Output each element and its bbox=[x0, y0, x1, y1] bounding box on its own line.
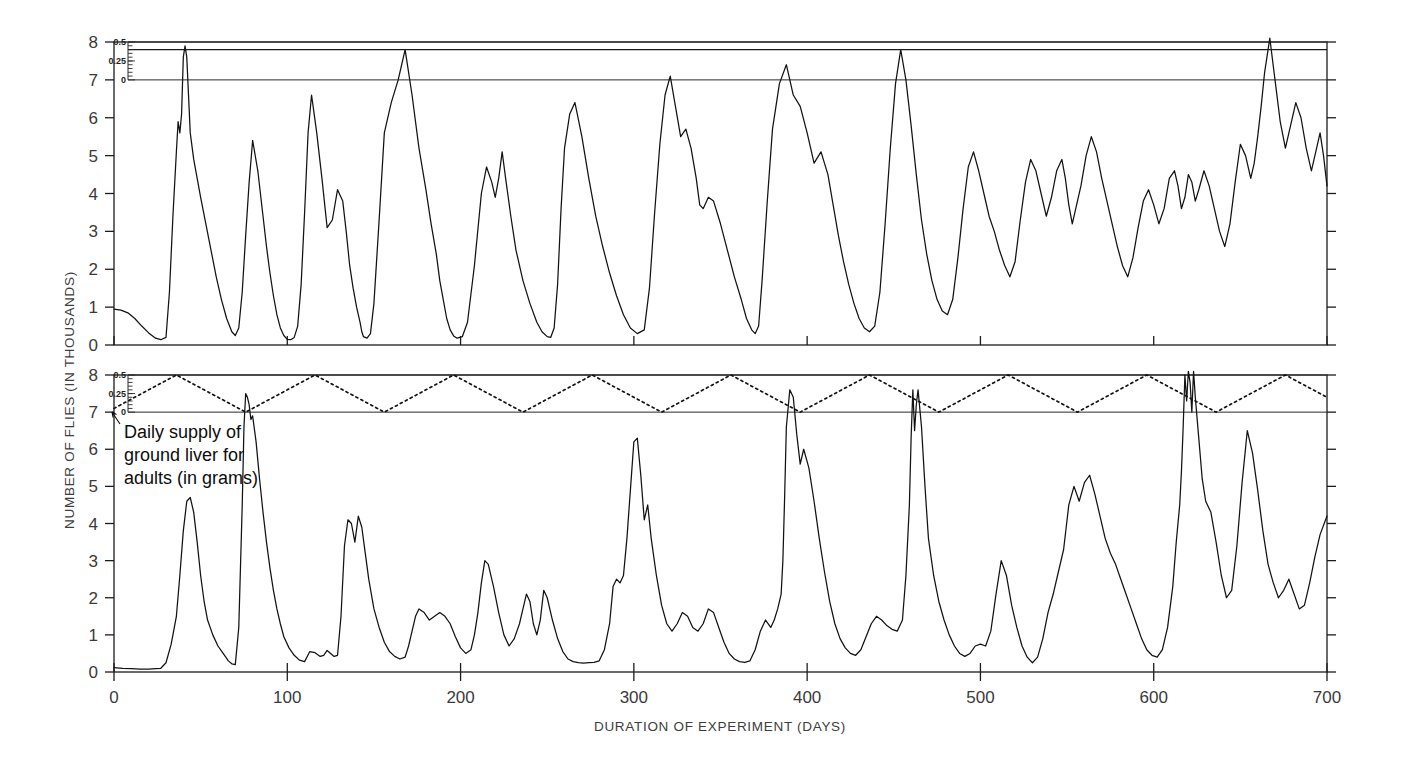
x-tick-label: 500 bbox=[966, 688, 994, 707]
y-tick-label: 3 bbox=[89, 222, 98, 241]
y-tick-label: 0 bbox=[89, 663, 98, 682]
supply-tick-label: 0.5 bbox=[113, 37, 126, 47]
panel-bottom: 012345678010020030040050060070000.250.5 bbox=[89, 366, 1342, 707]
x-tick-label: 100 bbox=[273, 688, 301, 707]
y-axis-title: NUMBER OF FLIES (IN THOUSANDS) bbox=[62, 271, 77, 529]
y-tick-label: 6 bbox=[89, 440, 98, 459]
y-tick-label: 7 bbox=[89, 71, 98, 90]
callout-arrow-icon bbox=[112, 412, 120, 424]
y-tick-label: 1 bbox=[89, 626, 98, 645]
y-tick-label: 7 bbox=[89, 403, 98, 422]
annotation-line-2-label: ground liver for bbox=[124, 445, 244, 465]
panel-top: 01234567800.250.5 bbox=[89, 33, 1336, 355]
annotation-line-1-label: Daily supply of bbox=[124, 422, 242, 442]
plot-frame bbox=[114, 375, 1327, 672]
x-tick-label: 400 bbox=[793, 688, 821, 707]
liver-supply-annotation: Daily supply ofground liver foradults (i… bbox=[112, 412, 258, 488]
y-tick-label: 4 bbox=[89, 515, 98, 534]
fly-population-curve bbox=[114, 38, 1327, 339]
x-tick-label: 0 bbox=[109, 688, 118, 707]
y-tick-label: 3 bbox=[89, 552, 98, 571]
y-tick-label: 8 bbox=[89, 366, 98, 385]
y-tick-label: 6 bbox=[89, 109, 98, 128]
annotation-line-3-label: adults (in grams) bbox=[124, 468, 258, 488]
supply-tick-label: 0 bbox=[121, 407, 126, 417]
y-tick-label: 2 bbox=[89, 260, 98, 279]
y-tick-label: 0 bbox=[89, 336, 98, 355]
x-tick-label: 700 bbox=[1313, 688, 1341, 707]
y-tick-label: 4 bbox=[89, 185, 98, 204]
x-axis-title: DURATION OF EXPERIMENT (DAYS) bbox=[594, 719, 846, 734]
flies-population-figure: 01234567800.250.501234567801002003004005… bbox=[0, 0, 1418, 771]
y-tick-label: 8 bbox=[89, 33, 98, 52]
fly-population-curve bbox=[114, 371, 1327, 669]
liver-supply-zigzag-line bbox=[114, 375, 1327, 412]
supply-tick-label: 0.5 bbox=[113, 370, 126, 380]
supply-tick-label: 0 bbox=[121, 75, 126, 85]
supply-tick-label: 0.25 bbox=[108, 56, 126, 66]
x-tick-label: 600 bbox=[1140, 688, 1168, 707]
y-tick-label: 1 bbox=[89, 298, 98, 317]
plot-frame bbox=[114, 42, 1327, 345]
y-tick-label: 2 bbox=[89, 589, 98, 608]
x-tick-label: 200 bbox=[446, 688, 474, 707]
y-tick-label: 5 bbox=[89, 147, 98, 166]
x-tick-label: 300 bbox=[620, 688, 648, 707]
supply-tick-label: 0.25 bbox=[108, 389, 126, 399]
figure-container: 01234567800.250.501234567801002003004005… bbox=[0, 0, 1418, 771]
y-tick-label: 5 bbox=[89, 477, 98, 496]
